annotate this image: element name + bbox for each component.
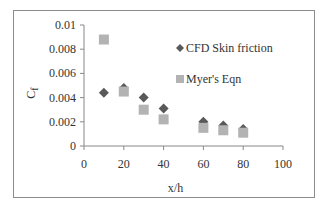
y-axis-label: Cf [24,87,40,99]
legend-label: CFD Skin friction [186,41,273,55]
myers-data-point [218,125,228,135]
myers-data-point [159,114,169,124]
x-tick-label: 20 [118,157,130,171]
myers-data-point [99,35,109,45]
cfd-data-point [159,103,169,113]
y-tick-label: 0.004 [49,91,76,105]
legend-diamond-icon [176,44,184,52]
x-tick-label: 60 [197,157,209,171]
myers-data-point [119,87,129,97]
myers-data-point [238,128,248,138]
x-tick-label: 80 [237,157,249,171]
cfd-data-point [139,93,149,103]
cfd-data-point [99,88,109,98]
x-tick-label: 40 [158,157,170,171]
y-tick-label: 0.01 [55,18,76,32]
x-tick-label: 100 [274,157,292,171]
myers-data-point [198,123,208,133]
x-tick-label: 0 [81,157,87,171]
y-tick-label: 0 [70,139,76,153]
legend-square-icon [176,75,184,83]
myers-data-point [139,105,149,115]
y-tick-label: 0.002 [49,115,76,129]
x-axis-label: x/h [168,181,183,195]
legend-label: Myer's Eqn [186,72,241,86]
y-tick-label: 0.008 [49,42,76,56]
scatter-chart: 00.0020.0040.0060.0080.01020406080100x/h… [0,0,326,208]
y-tick-label: 0.006 [49,66,76,80]
